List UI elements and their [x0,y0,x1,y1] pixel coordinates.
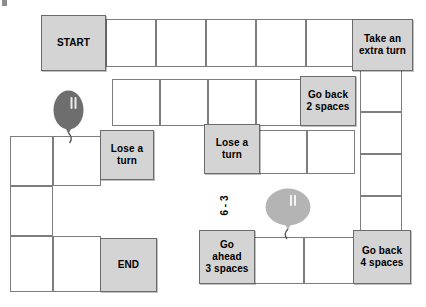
board-cell-lose-turn-middle[interactable]: Lose a turn [204,124,260,174]
board-cell-top-2[interactable] [156,19,206,67]
board-cell-row2-2[interactable] [160,79,208,126]
board-cell-end[interactable]: END [100,238,157,292]
board-cell-row2-1[interactable] [112,79,160,126]
board-cell-top-4[interactable] [256,19,306,67]
board-cell-top-5[interactable] [306,19,354,67]
board-cell-lose-turn-left[interactable]: Lose a turn [100,130,154,180]
board-cell-take-extra-turn[interactable]: Take an extra turn [352,19,413,71]
board-cell-label-go-back-4: Go back 4 spaces [358,245,405,269]
board-cell-mid-right-1[interactable] [259,130,307,174]
board-cell-bottom-1[interactable] [254,237,304,284]
board-cell-go-back-4[interactable]: Go back 4 spaces [353,230,411,284]
board-cell-label-go-ahead-3: Go ahead 3 spaces [203,239,250,275]
board-cell-label-take-extra-turn: Take an extra turn [357,33,408,57]
balloon-dark-icon [53,90,84,144]
board-cell-mid-right-2[interactable] [307,130,355,174]
board-cell-left-mid-2[interactable] [53,236,101,292]
board-cell-go-ahead-3[interactable]: Go ahead 3 spaces [199,230,255,284]
board-cell-right-col-2[interactable] [360,112,402,154]
board-cell-label-end: END [116,259,141,271]
board-cell-left-col-3[interactable] [10,236,53,292]
corner-tick-icon [2,0,7,6]
board-cell-label-go-back-2: Go back 2 spaces [304,89,351,113]
board-cell-top-3[interactable] [206,19,256,67]
board-cell-top-1[interactable] [106,19,156,67]
board-cell-label-start: START [55,37,92,49]
board-game-canvas: STARTTake an extra turnGo back 2 spacesL… [0,0,426,307]
board-cell-right-col-3[interactable] [360,154,402,196]
board-cell-go-back-2[interactable]: Go back 2 spaces [300,76,356,126]
board-cell-left-col-1[interactable] [10,136,53,186]
rotated-label-dice-subtraction: 6 - 3 [219,195,230,215]
board-cell-left-col-2[interactable] [10,186,53,236]
board-cell-row2-4[interactable] [256,79,302,126]
board-cell-label-lose-turn-left: Lose a turn [109,143,145,167]
board-cell-bottom-2[interactable] [304,237,354,284]
board-cell-row2-3[interactable] [208,79,256,126]
board-cell-right-col-1[interactable] [360,70,402,112]
balloon-light-icon [265,188,311,240]
board-cell-label-lose-turn-middle: Lose a turn [214,137,250,161]
board-cell-start[interactable]: START [41,15,106,71]
